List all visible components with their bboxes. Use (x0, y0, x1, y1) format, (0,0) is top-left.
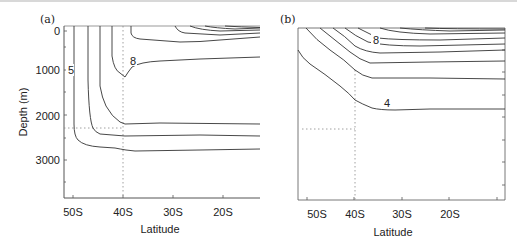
x-tick: 50S (63, 206, 83, 218)
panel-a-label: (a) (40, 13, 55, 26)
contour-label-4: 4 (384, 97, 390, 109)
x-tick: 20S (213, 206, 233, 218)
panel-a-contours (74, 26, 260, 151)
panel-a-axes (64, 26, 260, 198)
contour-figure: (a) 0 1000 2000 3000 50S 40S 30S 20S Lat… (0, 0, 517, 249)
x-tick: 40S (113, 206, 133, 218)
x-axis-label: Latitude (140, 223, 179, 235)
y-tick: 0 (54, 25, 60, 37)
x-axis-label: Latitude (373, 226, 412, 238)
contour-label-8: 8 (130, 55, 136, 67)
x-tick: 30S (163, 206, 183, 218)
x-tick: 50S (307, 208, 327, 220)
panel-b-axes (298, 28, 505, 200)
y-tick: 3000 (36, 154, 60, 166)
x-tick: 30S (392, 208, 412, 220)
panel-b-contours (298, 28, 505, 110)
panel-b-label: (b) (280, 13, 296, 26)
y-axis-label: Depth (m) (17, 88, 29, 137)
x-tick: 20S (440, 208, 460, 220)
x-tick: 40S (345, 208, 365, 220)
contour-label-5: 5 (68, 64, 74, 76)
panel-b: (b) 50S 40S 30S 20S Latitude (280, 13, 505, 238)
contour-label-8: 8 (373, 34, 379, 46)
panel-a: (a) 0 1000 2000 3000 50S 40S 30S 20S Lat… (17, 13, 260, 235)
y-tick: 2000 (36, 110, 60, 122)
y-tick: 1000 (36, 64, 60, 76)
